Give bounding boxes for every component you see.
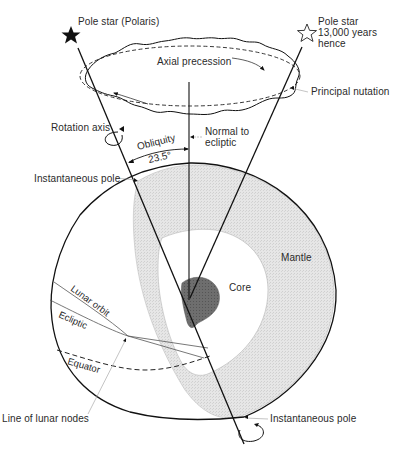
inst-pole-bottom-leader — [245, 418, 268, 419]
obliquity-arrow-left — [128, 159, 134, 163]
outline-star-icon — [298, 24, 317, 41]
core-label: Core — [229, 282, 251, 294]
precession-arrow-right — [232, 58, 264, 70]
nutation-leader-arrow — [290, 86, 294, 90]
filled-star-icon — [62, 26, 81, 43]
nutation-wave — [85, 38, 299, 115]
pole-star-now-label: Pole star (Polaris) — [78, 16, 159, 28]
instantaneous-pole-bottom-label: Instantaneous pole — [270, 413, 356, 425]
normal-leader-arrow — [190, 135, 194, 139]
obliquity-label: Obliquity — [136, 132, 176, 152]
normal-to-ecliptic-label-2: ecliptic — [205, 137, 236, 149]
line-of-lunar-nodes-label: Line of lunar nodes — [2, 413, 89, 425]
rotation-loop-bottom — [239, 425, 263, 441]
rotation-axis-label: Rotation axis — [51, 122, 110, 134]
pole-star-future-label-3: hence — [318, 38, 346, 50]
axial-precession-label: Axial precession — [157, 56, 231, 68]
instantaneous-pole-top-label: Instantaneous pole — [34, 173, 120, 185]
rotation-loop-top-arrow — [119, 126, 124, 132]
obliquity-arrow-right — [184, 147, 189, 151]
mantle-label: Mantle — [281, 252, 312, 264]
precession-circle — [80, 46, 300, 106]
principal-nutation-label: Principal nutation — [311, 86, 390, 98]
obliquity-value: 23.5° — [147, 149, 172, 165]
